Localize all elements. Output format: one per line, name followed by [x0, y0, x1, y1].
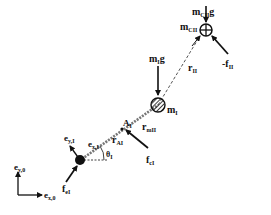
world-frame: [18, 172, 42, 195]
label-mass-end: mCII: [180, 21, 198, 33]
label-e-yI: ey,I: [64, 133, 75, 144]
force-arrow-f-cI: [126, 130, 148, 148]
label-gravity-end: mCIIg: [192, 6, 214, 18]
label-r-mII: rmII: [142, 121, 157, 133]
unit-vector-e-yI: [70, 146, 80, 160]
label-e-x0: ex,0: [44, 190, 56, 201]
label-neg-f-II: -fII: [222, 58, 234, 70]
force-arrow-neg-f-II: [212, 36, 228, 54]
label-A-I: AI: [123, 118, 133, 129]
angle-arc: [100, 146, 104, 160]
label-f-eI: feI: [62, 183, 71, 195]
label-e-y0: ey,0: [14, 162, 25, 173]
label-e-xI: ex,I: [88, 139, 100, 150]
label-mass-mid: mI: [167, 104, 178, 116]
label-r-AI: rAI: [112, 134, 124, 146]
label-theta-I: θI: [106, 150, 113, 160]
end-mass-icon: [200, 24, 212, 36]
free-body-diagram: mCIIg mCII rII -fII mIg mI rmII rAI AI f…: [0, 0, 271, 215]
rod-dashed: [82, 36, 200, 159]
label-f-cI: fcI: [146, 154, 155, 166]
label-r-II: rII: [188, 62, 198, 74]
force-arrow-f-eI: [66, 166, 77, 182]
label-gravity-mid: mIg: [149, 53, 165, 65]
middle-mass-icon: [151, 98, 165, 112]
